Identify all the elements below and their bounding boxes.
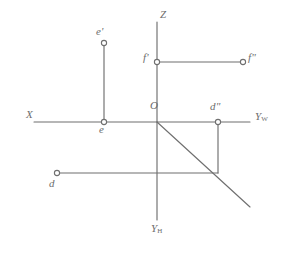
axis-label-z: Z <box>160 9 166 20</box>
axis-label-yw: YW <box>255 111 268 123</box>
axis-label-yw-subscript: W <box>261 115 268 123</box>
point-label-f-prime: f' <box>143 52 149 63</box>
projection-drawing <box>0 0 290 261</box>
bisector-line <box>157 122 250 207</box>
point-marker-f-prime <box>154 59 159 64</box>
point-marker-d-double-prime <box>215 119 220 124</box>
axis-label-yh: YH <box>151 223 162 235</box>
point-marker-f-double-prime <box>240 59 245 64</box>
projection-diagram-canvas: X Z YW YH O e' e f' f" d" d <box>0 0 290 261</box>
point-marker-e-prime <box>101 40 106 45</box>
point-label-f-double-prime: f" <box>248 52 256 63</box>
bisector-line-group <box>157 122 250 207</box>
origin-label: O <box>150 100 158 111</box>
axis-label-yh-subscript: H <box>157 227 162 235</box>
point-label-e-prime: e' <box>96 26 104 37</box>
axis-label-x: X <box>26 109 33 120</box>
point-label-e: e <box>99 124 104 135</box>
point-marker-d <box>54 170 59 175</box>
point-label-d: d <box>49 178 55 189</box>
point-label-d-double-prime: d" <box>210 101 221 112</box>
